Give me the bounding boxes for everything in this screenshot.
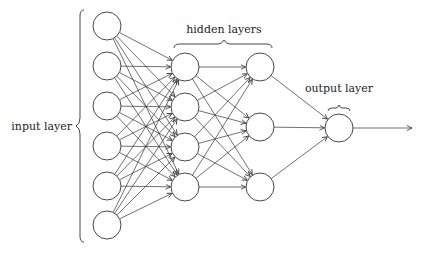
input-neuron (93, 12, 121, 40)
hidden1-neuron (171, 173, 199, 201)
input-layer-label: input layer (11, 120, 72, 133)
edge (271, 137, 327, 179)
hidden1-neuron (171, 93, 199, 121)
edge (199, 131, 246, 144)
hidden1-neuron (171, 53, 199, 81)
hidden2-neuron (246, 53, 274, 81)
edge (121, 66, 171, 67)
neural-network-diagram: input layer hidden layers output layer (0, 0, 430, 253)
input-neuron (93, 52, 121, 80)
edge (119, 33, 172, 61)
input-neuron (93, 211, 121, 239)
hidden2-neuron (246, 113, 274, 141)
hidden1-neuron (171, 133, 199, 161)
edge (115, 119, 177, 213)
edge (120, 193, 172, 219)
hidden2-neuron (246, 173, 274, 201)
hidden-layers-label: hidden layers (186, 23, 262, 36)
input-neuron (93, 172, 121, 200)
neuron-nodes (93, 12, 353, 239)
input-neuron (93, 132, 121, 160)
input-neuron (93, 92, 121, 120)
edge (199, 111, 246, 124)
output-neuron (325, 114, 353, 142)
edge (274, 127, 325, 128)
output-layer-label: output layer (305, 82, 374, 95)
hidden-layers-brace (174, 40, 272, 48)
input-layer-brace (76, 10, 84, 242)
output-layer-brace (328, 105, 350, 111)
